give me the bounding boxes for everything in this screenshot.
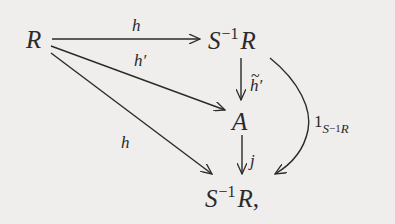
arrows-layer	[0, 0, 395, 224]
node-superscript: −1	[222, 25, 239, 42]
arrow-h-bottom	[51, 53, 212, 174]
node-superscript: −1	[219, 183, 236, 200]
node-S-inverse-R-bottom: S−1R,	[205, 186, 259, 211]
label-identity-base: 1	[314, 112, 323, 131]
subscript-R: R	[341, 121, 349, 136]
node-A: A	[232, 109, 247, 134]
node-S-inverse-R-top: S−1R	[208, 28, 256, 53]
label-h-bottom: h	[121, 134, 130, 151]
label-h-prime: h′	[134, 52, 146, 69]
node-text-R: R	[238, 185, 253, 212]
label-identity: 1S−1R	[314, 113, 349, 130]
node-text-S: S	[205, 185, 218, 212]
node-R-text: R	[26, 26, 41, 53]
label-j: j	[250, 152, 255, 169]
subscript-superscript: −1	[329, 122, 341, 134]
node-R: R	[26, 27, 41, 52]
label-h-prime-tilde: h′	[250, 77, 262, 94]
commutative-diagram: R S−1R A S−1R, h h′ h h′ j 1S−1R	[0, 0, 395, 224]
node-A-text: A	[232, 108, 247, 135]
label-h-top: h	[132, 17, 141, 34]
node-text-S: S	[208, 27, 221, 54]
arrow-identity-curved	[270, 58, 309, 174]
node-text-R: R	[241, 27, 256, 54]
node-punctuation: ,	[253, 185, 259, 212]
label-identity-subscript: S−1R	[323, 121, 349, 136]
